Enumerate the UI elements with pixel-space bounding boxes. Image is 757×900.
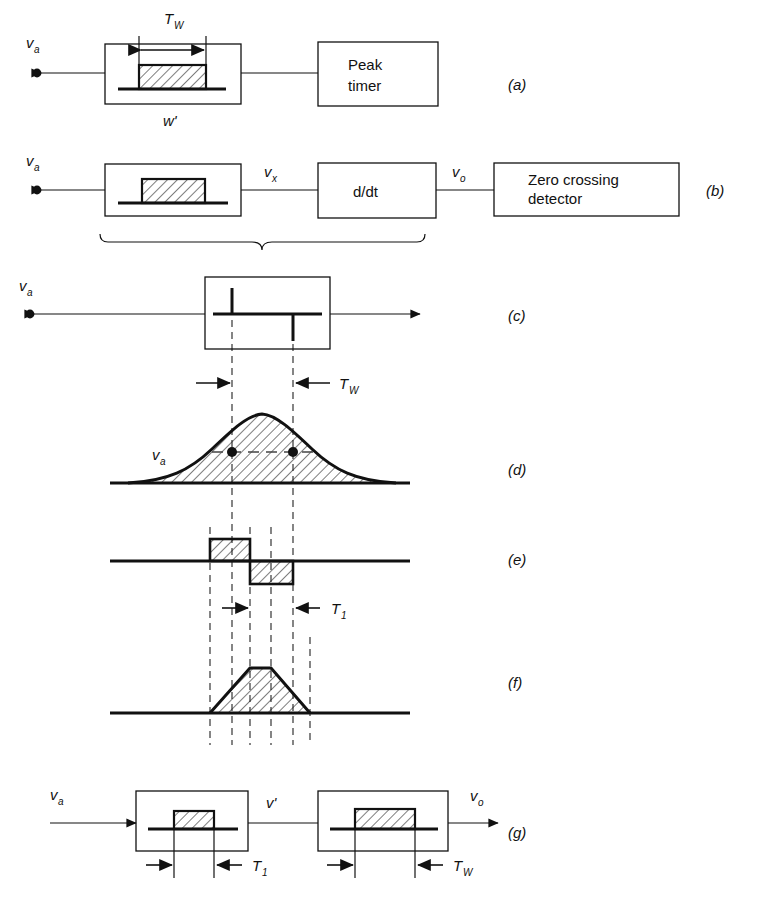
panel-a-input-node	[33, 69, 42, 78]
panel-c-tw-sub: W	[349, 385, 360, 396]
panel-d: v a (d)	[110, 414, 526, 483]
panel-g-pulse-t1	[174, 811, 214, 829]
panel-b: v a v x d/dt v o Zero crossing detector …	[26, 152, 724, 250]
panel-b-zero-cross-line2: detector	[528, 190, 582, 207]
panel-a-tw-dimension	[139, 36, 206, 66]
panel-a-peak-timer-line2: timer	[348, 77, 381, 94]
panel-g-va-sub: a	[58, 796, 64, 807]
panel-g-tw-dimension: T W	[327, 857, 474, 878]
panel-g-vo-sub: o	[478, 797, 484, 808]
panel-e-id: (e)	[508, 551, 526, 568]
panel-f: (f)	[110, 668, 522, 713]
panel-c: v a (c) T W	[19, 277, 526, 396]
panel-d-sample-dot-right	[288, 447, 298, 457]
panel-b-grouping-brace	[100, 234, 425, 250]
panel-g-t1-sub: 1	[262, 867, 268, 878]
diagram-svg: T W v a w' Peak timer (a) v a v x d/dt	[0, 0, 757, 900]
panel-c-id: (c)	[508, 307, 526, 324]
panel-b-vo-sub: o	[460, 173, 466, 184]
panel-b-va-sub: a	[34, 162, 40, 173]
panel-e-t1-sub: 1	[341, 610, 347, 621]
panel-g-pulse-tw	[355, 809, 415, 829]
panel-a: T W v a w' Peak timer (a)	[26, 10, 526, 129]
figure-canvas: T W v a w' Peak timer (a) v a v x d/dt	[0, 0, 757, 900]
panel-g-id: (g)	[508, 824, 526, 841]
panel-e-positive-lobe	[210, 539, 250, 561]
panel-b-derivative-label: d/dt	[353, 183, 379, 200]
panel-d-id: (d)	[508, 461, 526, 478]
panel-f-id: (f)	[508, 674, 522, 691]
panel-a-peak-timer-line1: Peak	[348, 56, 383, 73]
panel-e: (e) T 1	[110, 539, 526, 621]
panel-b-input-node	[33, 186, 42, 195]
panel-a-va-sub: a	[34, 44, 40, 55]
panel-c-va-sub: a	[27, 287, 33, 298]
panel-b-id: (b)	[706, 182, 724, 199]
panel-g-t1-dimension: T 1	[146, 857, 268, 878]
panel-c-input-node	[26, 310, 35, 319]
panel-d-gaussian-fill	[128, 414, 396, 483]
panel-b-pulse-block	[142, 179, 205, 203]
panel-b-vx-sub: x	[271, 173, 278, 184]
panel-a-id: (a)	[508, 76, 526, 93]
panel-g: v a v' v o T 1 T W	[50, 786, 526, 878]
panel-b-zero-cross-line1: Zero crossing	[528, 171, 619, 188]
panel-g-vprime-label: v'	[266, 794, 278, 811]
panel-c-tw-dimension: T W	[196, 375, 360, 396]
panel-e-negative-lobe	[250, 561, 293, 584]
panel-d-sample-dot-left	[227, 447, 237, 457]
panel-f-trapezoid-fill	[210, 668, 310, 713]
panel-a-tw-sub: W	[174, 20, 185, 31]
panel-d-va-sub: a	[160, 456, 166, 467]
panel-a-peak-timer-box	[318, 42, 438, 106]
panel-g-tw-sub: W	[463, 867, 474, 878]
panel-a-pulse-block	[139, 65, 206, 89]
panel-a-wprime-label: w'	[163, 112, 178, 129]
panel-e-t1-dimension: T 1	[222, 600, 347, 621]
